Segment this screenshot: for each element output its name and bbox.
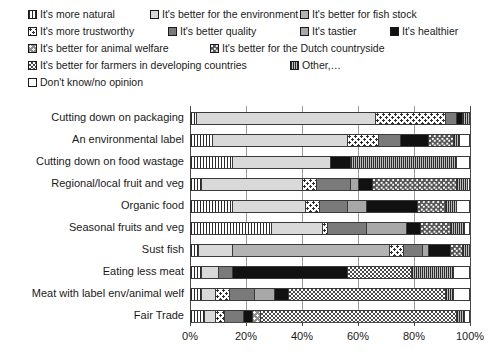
bar-segment-environment: [201, 178, 302, 191]
legend-swatch-fish_stock-icon: [300, 10, 309, 19]
category-label: Sust fish: [142, 243, 184, 255]
legend-item-dont_know[interactable]: Don't know/no opinion: [28, 77, 143, 88]
bar-segment-trustworthy: [215, 288, 229, 301]
bars-area: [190, 106, 470, 322]
bar-segment-natural: [190, 266, 201, 279]
legend-swatch-trustworthy-icon: [28, 27, 37, 36]
legend-item-environment[interactable]: It's better for the environment: [150, 9, 298, 20]
legend-swatch-quality-icon: [168, 27, 177, 36]
x-tick-label-20: 20%: [235, 330, 257, 342]
bar-segment-healthier: [274, 288, 288, 301]
bar-segment-quality: [403, 244, 423, 257]
bar-row: [190, 244, 470, 257]
legend-label-quality: It's better quality: [180, 26, 256, 37]
bar-segment-healthier: [330, 156, 350, 169]
x-tick-20: [246, 322, 247, 326]
bar-segment-dont_know: [459, 134, 470, 147]
plot-area: Cutting down on packagingAn environmenta…: [0, 100, 495, 352]
bar-segment-healthier: [366, 200, 416, 213]
legend-item-tastier[interactable]: It's tastier: [300, 26, 357, 37]
category-label: Cutting down on food wastage: [36, 155, 184, 167]
bar-segment-dutch_countryside: [428, 134, 453, 147]
bar-segment-dont_know: [467, 178, 470, 191]
bar-segment-natural: [190, 134, 212, 147]
legend-label-natural: It's more natural: [40, 9, 115, 20]
legend-label-tastier: It's tastier: [312, 26, 357, 37]
legend-label-animal_welfare: It's better for animal welfare: [40, 43, 169, 54]
bar-segment-dutch_countryside: [417, 200, 445, 213]
legend-item-natural[interactable]: It's more natural: [28, 9, 115, 20]
bar-segment-natural: [190, 178, 201, 191]
bar-segment-other: [456, 178, 467, 191]
bar-segment-natural: [190, 222, 271, 235]
x-tick-label-80: 80%: [403, 330, 425, 342]
bar-segment-dont_know: [456, 156, 470, 169]
bar-segment-quality: [316, 178, 350, 191]
legend-item-farmers[interactable]: It's better for farmers in developing co…: [28, 60, 247, 71]
category-label: Regional/local fruit and veg: [51, 177, 184, 189]
bar-row: [190, 156, 470, 169]
bar-segment-trustworthy: [347, 134, 378, 147]
legend-swatch-dont_know-icon: [28, 78, 37, 87]
x-tick-0: [190, 322, 191, 326]
category-label: An environmental label: [72, 133, 184, 145]
bar-segment-tastier: [350, 178, 358, 191]
legend-item-animal_welfare[interactable]: It's better for animal welfare: [28, 43, 169, 54]
bar-segment-other: [350, 156, 456, 169]
legend-label-other: Other,…: [302, 60, 341, 71]
legend-label-fish_stock: It's better for fish stock: [312, 9, 417, 20]
x-axis-line: [190, 322, 471, 323]
category-axis: Cutting down on packagingAn environmenta…: [0, 100, 190, 322]
legend-item-trustworthy[interactable]: It's more trustworthy: [28, 26, 134, 37]
bar-segment-quality: [445, 112, 456, 125]
bar-segment-healthier: [406, 222, 420, 235]
bar-segment-quality: [319, 200, 347, 213]
legend-row: It's better for farmers in developing co…: [0, 57, 495, 74]
legend-swatch-farmers-icon: [28, 61, 37, 70]
bar-segment-environment: [232, 156, 330, 169]
chart-legend: It's more naturalIt's better for the env…: [0, 0, 495, 96]
bar-segment-other: [445, 288, 453, 301]
legend-item-quality[interactable]: It's better quality: [168, 26, 256, 37]
bar-segment-environment: [271, 222, 321, 235]
legend-swatch-other-icon: [290, 61, 299, 70]
legend-swatch-tastier-icon: [300, 27, 309, 36]
legend-swatch-dutch_countryside-icon: [210, 44, 219, 53]
bar-segment-healthier: [232, 266, 347, 279]
x-tick-60: [358, 322, 359, 326]
legend-label-trustworthy: It's more trustworthy: [40, 26, 134, 37]
bar-segment-tastier: [347, 200, 367, 213]
bar-row: [190, 112, 470, 125]
bar-segment-other: [462, 244, 470, 257]
bar-segment-dont_know: [464, 222, 470, 235]
bar-segment-dont_know: [453, 266, 470, 279]
legend-swatch-healthier-icon: [390, 27, 399, 36]
bar-segment-dutch_countryside: [420, 222, 451, 235]
bar-segment-natural: [190, 156, 232, 169]
legend-item-fish_stock[interactable]: It's better for fish stock: [300, 9, 417, 20]
legend-item-other[interactable]: Other,…: [290, 60, 341, 71]
bar-segment-environment: [201, 288, 215, 301]
bar-segment-quality: [218, 266, 232, 279]
bar-row: [190, 134, 470, 147]
legend-item-dutch_countryside[interactable]: It's better for the Dutch countryside: [210, 43, 385, 54]
bar-segment-dutch_countryside: [450, 244, 461, 257]
legend-label-healthier: It's healthier: [402, 26, 458, 37]
legend-item-healthier[interactable]: It's healthier: [390, 26, 458, 37]
bar-segment-healthier: [428, 244, 450, 257]
bar-segment-environment: [212, 134, 346, 147]
category-label: Meat with label env/animal welf: [32, 287, 184, 299]
gridline-100: [470, 106, 471, 322]
legend-row: It's more naturalIt's better for the env…: [0, 6, 495, 23]
bar-segment-dont_know: [453, 288, 470, 301]
legend-label-dutch_countryside: It's better for the Dutch countryside: [222, 43, 385, 54]
bar-segment-natural: [190, 288, 201, 301]
x-tick-100: [470, 322, 471, 326]
legend-swatch-animal_welfare-icon: [28, 44, 37, 53]
bar-segment-dont_know: [456, 200, 470, 213]
bar-segment-quality: [229, 288, 254, 301]
category-label: Seasonal fruits and veg: [69, 221, 184, 233]
bar-segment-quality: [327, 222, 366, 235]
bar-segment-quality: [378, 134, 400, 147]
x-tick-80: [414, 322, 415, 326]
